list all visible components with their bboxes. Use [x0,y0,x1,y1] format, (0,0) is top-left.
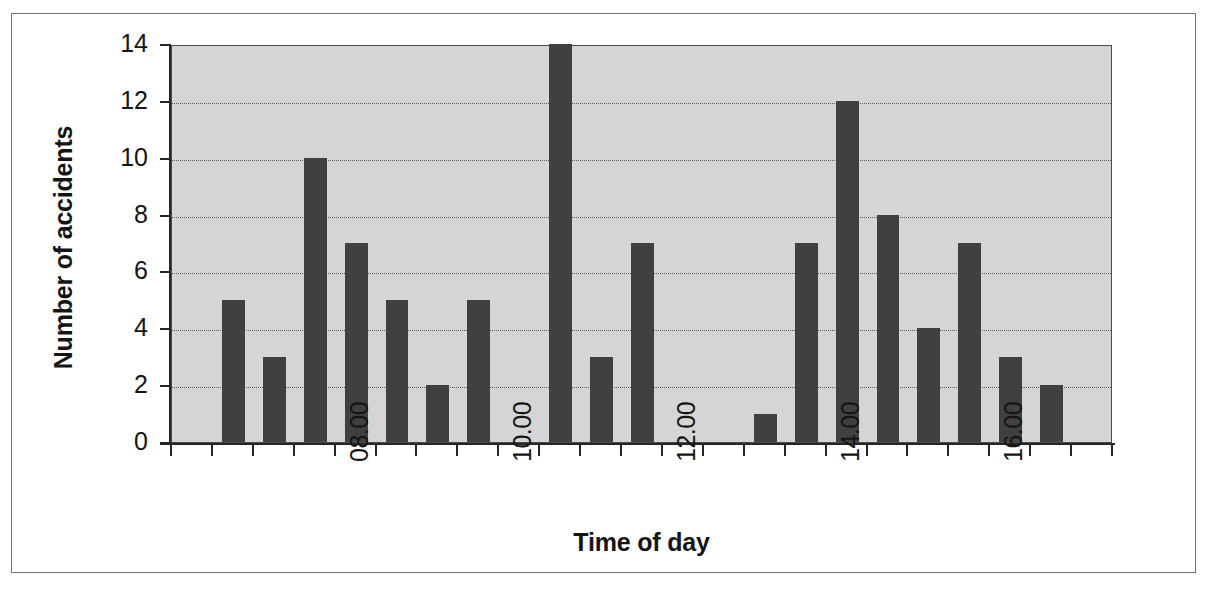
x-tick [252,445,254,456]
y-tick [160,328,171,330]
accidents-by-time-bar-chart: Number of accidents 02468101214 08.0010.… [0,0,1208,591]
y-tick [160,44,171,46]
y-tick [160,101,171,103]
x-tick [538,445,540,456]
bar [263,357,286,442]
bar [386,300,409,442]
bar [467,300,490,442]
bar [795,243,818,442]
x-tick-label: 12.00 [672,402,701,462]
y-tick [160,271,171,273]
x-axis-title: Time of day [171,528,1112,557]
x-tick [620,445,622,456]
y-tick-label: 0 [88,429,148,454]
bar [590,357,613,442]
y-tick [160,385,171,387]
y-tick-label: 8 [88,202,148,227]
x-tick [497,445,499,456]
bar [1040,385,1063,442]
x-tick [866,445,868,456]
y-tick-label: 2 [88,372,148,397]
x-tick-label: 14.00 [836,402,865,462]
x-axis-line [160,443,1115,445]
x-tick [784,445,786,456]
x-tick [1111,445,1113,456]
x-tick [334,445,336,456]
x-tick [579,445,581,456]
y-tick [160,158,171,160]
y-tick [160,215,171,217]
y-tick-label-group: 02468101214 [88,0,148,591]
bar [426,385,449,442]
x-tick-label: 10.00 [508,402,537,462]
x-tick [456,445,458,456]
y-tick-label: 10 [88,145,148,170]
gridline [172,103,1111,104]
bar [836,101,859,442]
plot-area [171,45,1112,443]
bar [222,300,245,442]
bar [631,243,654,442]
x-tick [947,445,949,456]
x-tick [1070,445,1072,456]
bar [549,44,572,442]
x-tick [170,445,172,456]
x-tick [1029,445,1031,456]
bar [754,414,777,442]
bar [304,158,327,442]
x-tick [375,445,377,456]
x-tick [743,445,745,456]
bar [917,328,940,442]
x-tick [906,445,908,456]
x-tick [661,445,663,456]
x-tick [702,445,704,456]
x-tick [988,445,990,456]
x-tick-label: 16.00 [999,402,1028,462]
y-tick-label: 6 [88,258,148,283]
x-tick [415,445,417,456]
x-tick [293,445,295,456]
y-tick-label: 4 [88,315,148,340]
bar [958,243,981,442]
bar [877,215,900,442]
x-tick [211,445,213,456]
x-tick [825,445,827,456]
y-tick-label: 12 [88,88,148,113]
x-tick-label: 08.00 [345,402,374,462]
y-tick-label: 14 [88,31,148,56]
y-axis-title: Number of accidents [49,123,78,373]
